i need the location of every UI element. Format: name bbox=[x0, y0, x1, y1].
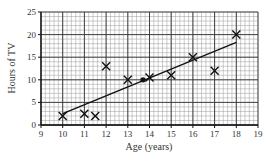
y-axis-label: Hours of TV bbox=[6, 42, 17, 94]
y-tick-labels: 0510152025 bbox=[27, 7, 37, 130]
major-grid bbox=[41, 12, 258, 125]
x-tick-label: 10 bbox=[58, 129, 68, 139]
y-tick-label: 5 bbox=[32, 97, 37, 107]
x-tick-label: 18 bbox=[232, 129, 242, 139]
x-axis-label: Age (years) bbox=[126, 141, 173, 153]
y-tick-label: 15 bbox=[27, 52, 37, 62]
x-tick-label: 15 bbox=[167, 129, 177, 139]
x-tick-label: 17 bbox=[210, 129, 220, 139]
x-tick-label: 16 bbox=[188, 129, 198, 139]
mean-point-marker bbox=[140, 77, 145, 82]
scatter-chart: 910111213141516171819 0510152025 Age (ye… bbox=[0, 0, 268, 158]
y-tick-label: 20 bbox=[27, 30, 37, 40]
y-tick-label: 10 bbox=[27, 75, 37, 85]
x-tick-label: 12 bbox=[102, 129, 111, 139]
y-tick-label: 0 bbox=[32, 120, 37, 130]
x-tick-label: 13 bbox=[123, 129, 133, 139]
x-tick-labels: 910111213141516171819 bbox=[39, 129, 263, 139]
y-tick-label: 25 bbox=[27, 7, 37, 17]
x-tick-label: 14 bbox=[145, 129, 155, 139]
x-tick-label: 11 bbox=[80, 129, 89, 139]
x-tick-label: 9 bbox=[39, 129, 44, 139]
x-tick-label: 19 bbox=[254, 129, 264, 139]
